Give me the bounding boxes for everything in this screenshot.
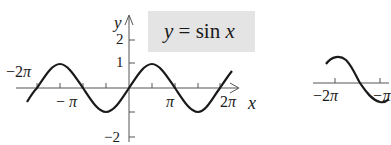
left-axes — [16, 15, 239, 142]
x-tick-neg-pi-pi: π — [69, 93, 77, 110]
y-axis-label: y — [114, 14, 122, 31]
x-tick-neg-2pi: −2π — [6, 64, 31, 80]
right-x-tick-neg-pi: −π — [372, 88, 391, 104]
x-tick-2pi-pi: π — [228, 93, 236, 110]
y-tick-1: 1 — [116, 55, 124, 70]
right-x-tick-neg-2pi-num: −2 — [313, 87, 330, 104]
x-tick-pi: π — [166, 94, 174, 110]
x-tick-neg-2pi-pi: π — [23, 63, 31, 80]
y-tick-2: 2 — [116, 32, 124, 47]
x-tick-neg-2pi-num: −2 — [6, 63, 23, 80]
right-axes — [313, 78, 389, 83]
x-tick-2pi: 2π — [220, 94, 236, 110]
y-tick-neg2: −2 — [104, 130, 120, 145]
right-x-tick-neg-2pi: −2π — [313, 88, 338, 104]
right-x-tick-neg-2pi-pi: π — [330, 87, 338, 104]
x-tick-2pi-num: 2 — [220, 93, 228, 110]
x-tick-neg-pi: − π — [56, 94, 77, 110]
x-axis-label: x — [248, 94, 256, 112]
x-tick-neg-pi-minus: − — [56, 93, 65, 110]
